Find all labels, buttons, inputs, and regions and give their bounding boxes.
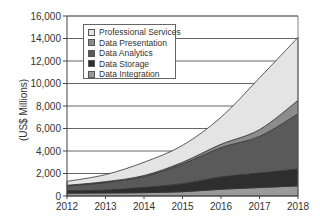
legend-label: Data Storage	[99, 59, 149, 69]
y-tick-label: 6,000	[36, 123, 61, 134]
legend-item-professional-services: Professional Services	[88, 27, 171, 38]
legend-item-data-presentation: Data Presentation	[88, 38, 171, 49]
y-axis-label: (US$ Millions)	[18, 79, 29, 141]
y-tick-label: 2,000	[36, 168, 61, 179]
x-tick-label: 2014	[133, 201, 156, 212]
legend-label: Professional Services	[99, 27, 181, 37]
legend-label: Data Analytics	[99, 48, 153, 58]
legend-label: Data Presentation	[99, 38, 167, 48]
y-tick-label: 8,000	[36, 101, 61, 112]
legend-item-data-integration: Data Integration	[88, 69, 171, 80]
y-axis-ticks: 02,0004,0006,0008,00010,00012,00014,0001…	[30, 11, 67, 202]
legend-swatch-icon	[88, 39, 95, 46]
x-axis-ticks: 2012201320142015201620172018	[56, 196, 310, 212]
chart-legend: Professional Services Data Presentation …	[83, 24, 176, 79]
legend-swatch-icon	[88, 60, 95, 67]
x-tick-label: 2015	[171, 201, 194, 212]
x-tick-label: 2013	[94, 201, 117, 212]
legend-label: Data Integration	[99, 69, 159, 79]
legend-swatch-icon	[88, 50, 95, 57]
x-tick-label: 2018	[287, 201, 310, 212]
legend-swatch-icon	[88, 29, 95, 36]
y-tick-label: 4,000	[36, 146, 61, 157]
y-tick-label: 14,000	[30, 33, 61, 44]
y-tick-label: 16,000	[30, 11, 61, 22]
y-tick-label: 10,000	[30, 78, 61, 89]
x-tick-label: 2017	[248, 201, 271, 212]
y-tick-label: 12,000	[30, 56, 61, 67]
x-tick-label: 2016	[210, 201, 233, 212]
y-tick-label: 0	[55, 191, 61, 202]
x-tick-label: 2012	[56, 201, 79, 212]
legend-swatch-icon	[88, 71, 95, 78]
legend-item-data-storage: Data Storage	[88, 59, 171, 70]
legend-item-data-analytics: Data Analytics	[88, 48, 171, 59]
